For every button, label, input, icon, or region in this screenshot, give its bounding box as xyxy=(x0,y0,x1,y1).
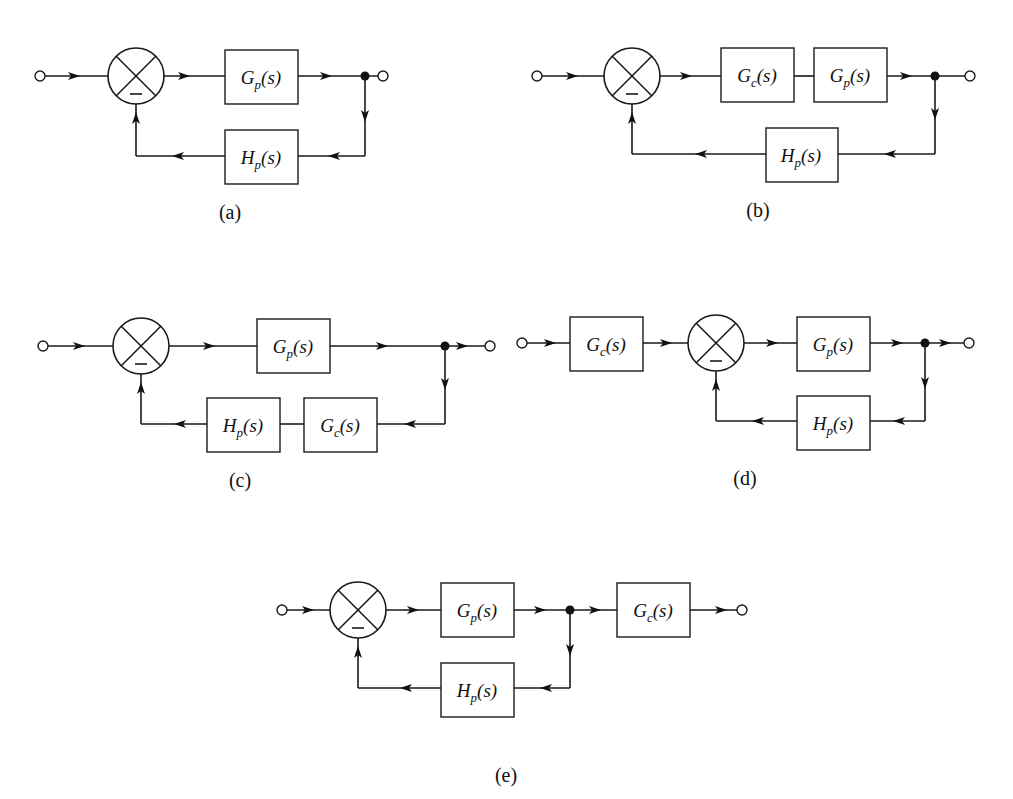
input-terminal xyxy=(532,71,542,81)
block-Hp: Hp(s) xyxy=(225,130,298,184)
block-Gp: Gp(s) xyxy=(225,50,298,104)
input-terminal xyxy=(35,71,45,81)
input-terminal xyxy=(277,605,287,615)
summing-junction xyxy=(108,48,164,104)
caption: (d) xyxy=(733,467,756,490)
block-Hp: Hp(s) xyxy=(797,396,870,450)
input-terminal xyxy=(38,341,48,351)
summing-junction xyxy=(113,318,169,374)
output-terminal xyxy=(965,71,975,81)
block-Hp: Hp(s) xyxy=(766,128,838,182)
block-Hp: Hp(s) xyxy=(207,398,280,452)
caption: (e) xyxy=(495,764,517,787)
summing-junction xyxy=(604,48,660,104)
diagram-e: Gp(s) Gc(s) Hp(s) (e) xyxy=(277,582,747,787)
diagram-a: Gp(s) Hp(s) (a) xyxy=(35,48,388,224)
figure-canvas: Gp(s) Hp(s) (a) G xyxy=(0,0,1013,799)
diagram-c: Gp(s) Gc(s) Hp(s) (c) xyxy=(38,318,495,492)
block-Hp: Hp(s) xyxy=(441,663,514,717)
caption: (b) xyxy=(746,199,769,222)
block-Gp: Gp(s) xyxy=(814,48,887,102)
diagram-d: Gc(s) Gp(s) Hp(s) (d) xyxy=(517,315,974,490)
input-terminal xyxy=(517,338,527,348)
caption: (c) xyxy=(229,469,251,492)
block-Gc: Gc(s) xyxy=(721,48,794,102)
caption: (a) xyxy=(219,201,241,224)
block-Gp: Gp(s) xyxy=(441,583,514,637)
output-terminal xyxy=(485,341,495,351)
output-terminal xyxy=(378,71,388,81)
output-terminal xyxy=(737,605,747,615)
block-Gp: Gp(s) xyxy=(257,319,330,373)
block-Gp: Gp(s) xyxy=(797,317,870,371)
block-Gc-prefilter: Gc(s) xyxy=(570,317,643,371)
summing-junction xyxy=(688,315,744,371)
output-terminal xyxy=(964,338,974,348)
summing-junction xyxy=(330,582,386,638)
block-Gc-postfilter: Gc(s) xyxy=(617,583,690,637)
diagram-b: Gc(s) Gp(s) Hp(s) (b) xyxy=(532,48,975,222)
block-Gc: Gc(s) xyxy=(304,398,377,452)
